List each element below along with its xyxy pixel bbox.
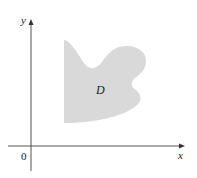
x-axis-label: x [178,150,183,161]
x-axis-arrow-icon [179,144,185,149]
y-axis-arrow-icon [29,19,34,25]
origin-label: 0 [21,151,27,162]
y-axis-label: y [21,15,26,26]
region-d-shape [64,40,146,123]
region-label: D [96,84,105,96]
